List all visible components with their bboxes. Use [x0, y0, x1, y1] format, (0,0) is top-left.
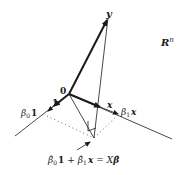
y-label: y: [105, 8, 113, 19]
dotted-line-beta0: [47, 116, 94, 138]
pointer-arrow: [77, 142, 90, 150]
origin-label: 0: [60, 86, 66, 96]
beta0-one-label: β01: [20, 108, 37, 119]
x-vector: [69, 94, 100, 107]
least-squares-diagram: y Rn 0 1 x β01 β1x β̂01+β̂1x=Xβ̂: [0, 0, 191, 175]
x-label: x: [106, 100, 113, 110]
fitted-line: [69, 94, 94, 138]
space-label: Rn: [160, 36, 174, 48]
dotted-line-beta1: [94, 115, 118, 138]
fitted-formula: β̂01+β̂1x=Xβ̂: [47, 155, 119, 166]
one-label: 1: [52, 98, 58, 108]
residual-line: [94, 18, 108, 138]
beta1-x-label: β1x: [120, 107, 137, 118]
y-vector: [69, 20, 107, 94]
